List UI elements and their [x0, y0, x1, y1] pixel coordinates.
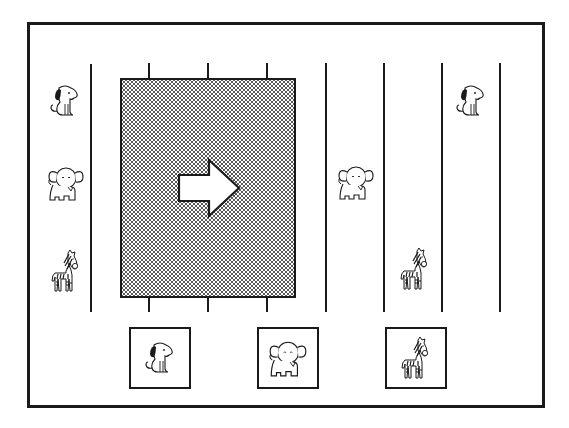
lane-divider-right-1	[325, 63, 327, 312]
zebra-icon	[50, 249, 82, 293]
elephant-icon	[45, 163, 87, 203]
dog-icon	[144, 341, 176, 375]
dog-icon	[49, 84, 81, 118]
elephant-icon	[335, 162, 377, 202]
zebra-icon	[400, 335, 432, 381]
lane-divider-right-4	[499, 63, 501, 312]
choice-card-zebra[interactable]	[385, 327, 447, 389]
arrow-right-icon	[176, 158, 242, 218]
dog-icon	[455, 84, 487, 118]
lane-divider-right-2	[383, 63, 385, 312]
zebra-icon	[399, 247, 431, 291]
choice-card-elephant[interactable]	[257, 327, 319, 389]
elephant-icon	[266, 337, 310, 379]
hidden-lane-tick-bottom-3	[266, 296, 268, 312]
hidden-lane-tick-top-3	[266, 63, 268, 79]
hidden-lane-tick-top-1	[148, 63, 150, 79]
hidden-lane-tick-top-2	[207, 63, 209, 79]
hidden-lane-tick-bottom-1	[148, 296, 150, 312]
lane-divider-right-3	[441, 63, 443, 312]
choice-card-dog[interactable]	[129, 327, 191, 389]
lane-divider-left	[90, 64, 92, 312]
hidden-lane-tick-bottom-2	[207, 296, 209, 312]
